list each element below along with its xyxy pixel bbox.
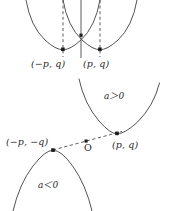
label-vertex-top-left: (−p, q) <box>31 59 65 69</box>
figure-canvas <box>0 0 170 211</box>
label-vertex-top-right: (p, q) <box>83 59 109 69</box>
point-marker-vertex-right <box>98 48 102 52</box>
math-figure: (−p, q) (p, q) a＞0 (−p, −q) O (p, q) a＜0 <box>0 0 170 211</box>
point-marker-vertex-lower-left <box>51 148 55 152</box>
label-vertex-bottom-right: (p, q) <box>112 140 138 150</box>
label-vertex-bottom-left: (−p, −q) <box>6 137 48 147</box>
label-origin: O <box>84 143 92 153</box>
point-marker-intersection <box>79 34 82 37</box>
upper-panel-group <box>26 0 137 58</box>
point-marker-vertex-left <box>61 48 65 52</box>
parabola-lower-upward <box>79 79 160 134</box>
label-a-positive: a＞0 <box>104 92 124 101</box>
point-marker-vertex-lower-right <box>115 132 119 136</box>
label-a-negative: a＜0 <box>38 181 58 190</box>
